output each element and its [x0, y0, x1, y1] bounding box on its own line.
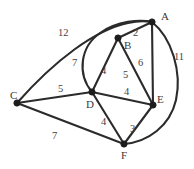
edge-weight-A-B: 2 — [133, 28, 138, 39]
edge-D-F — [92, 92, 124, 144]
graph-figure: A B C D E F 12 7 2 6 4 5 4 5 4 3 7 11 — [0, 0, 194, 169]
edge-weight-E-F: 3 — [130, 124, 135, 135]
node-dot-D — [89, 89, 95, 95]
edge-weight-A-F: 11 — [174, 52, 184, 63]
edge-weight-D-E: 4 — [124, 87, 129, 98]
edge-weight-C-F: 7 — [52, 131, 57, 142]
node-dot-F — [121, 141, 127, 147]
node-label-F: F — [121, 150, 127, 161]
edge-weight-D-A: 7 — [72, 58, 77, 69]
edge-weight-A-E: 6 — [138, 58, 143, 69]
edge-E-F — [124, 105, 153, 144]
node-dot-A — [149, 19, 155, 25]
edge-weight-B-E: 5 — [123, 70, 128, 81]
node-label-A: A — [161, 11, 169, 22]
edge-C-D — [17, 92, 92, 103]
node-dot-E — [150, 102, 156, 108]
edge-weight-D-F: 4 — [101, 117, 106, 128]
graph-canvas — [0, 0, 194, 169]
edge-weight-B-D: 4 — [101, 66, 106, 77]
edge-D-E — [92, 92, 153, 105]
edge-weight-C-D: 5 — [58, 84, 63, 95]
node-dot-B — [115, 35, 121, 41]
node-label-D: D — [86, 99, 94, 110]
node-label-E: E — [157, 94, 164, 105]
node-label-C: C — [10, 90, 17, 101]
node-label-B: B — [124, 40, 131, 51]
edge-C-F — [17, 103, 124, 144]
edge-weight-C-A: 12 — [58, 28, 69, 39]
edge-A-E — [152, 22, 153, 105]
edge-C-A — [17, 21, 152, 103]
